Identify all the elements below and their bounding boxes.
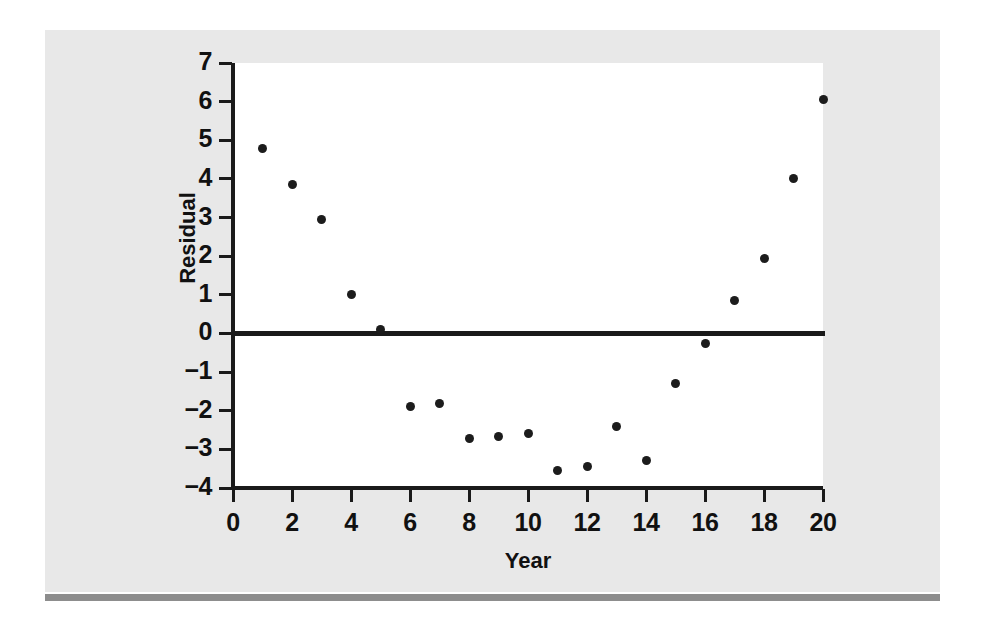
y-tick — [219, 255, 232, 258]
x-tick — [763, 489, 766, 502]
data-point — [760, 254, 769, 263]
x-tick-label: 8 — [439, 508, 499, 537]
y-tick-label: −3 — [154, 433, 212, 462]
y-tick — [219, 409, 232, 412]
x-tick-label: 0 — [203, 508, 263, 537]
data-point — [642, 456, 651, 465]
x-tick — [586, 489, 589, 502]
x-tick — [291, 489, 294, 502]
x-axis-title: Year — [233, 548, 823, 574]
x-tick-label: 10 — [498, 508, 558, 537]
y-tick — [219, 448, 232, 451]
y-axis-line — [231, 63, 235, 490]
data-point — [583, 462, 592, 471]
y-tick — [219, 62, 232, 65]
y-tick — [219, 216, 232, 219]
zero-reference-line — [231, 331, 825, 336]
residual-plot-figure: −4−3−2−101234567 02468101214161820 Resid… — [0, 0, 983, 622]
data-point — [494, 432, 503, 441]
x-tick-label: 12 — [557, 508, 617, 537]
x-tick-label: 14 — [616, 508, 676, 537]
x-tick — [232, 489, 235, 502]
x-tick-label: 20 — [793, 508, 853, 537]
y-tick — [219, 371, 232, 374]
data-point — [347, 290, 356, 299]
x-tick-label: 18 — [734, 508, 794, 537]
data-point — [376, 325, 385, 334]
y-tick — [219, 487, 232, 490]
x-tick — [527, 489, 530, 502]
y-tick — [219, 100, 232, 103]
y-tick-label: −1 — [154, 356, 212, 385]
x-tick — [409, 489, 412, 502]
data-point — [406, 402, 415, 411]
x-tick — [822, 489, 825, 502]
y-tick-label: 6 — [154, 86, 212, 115]
y-tick-label: −4 — [154, 472, 212, 501]
y-tick-label: −2 — [154, 395, 212, 424]
x-tick — [704, 489, 707, 502]
data-point — [612, 422, 621, 431]
data-point — [258, 144, 267, 153]
data-point — [465, 434, 474, 443]
y-tick — [219, 139, 232, 142]
y-tick-label: 5 — [154, 124, 212, 153]
x-tick — [645, 489, 648, 502]
x-tick-label: 6 — [380, 508, 440, 537]
y-tick-label: 7 — [154, 47, 212, 76]
data-point — [524, 429, 533, 438]
x-tick-label: 16 — [675, 508, 735, 537]
y-tick — [219, 293, 232, 296]
data-point — [701, 339, 710, 348]
y-axis-title: Residual — [175, 158, 201, 318]
x-tick-label: 2 — [262, 508, 322, 537]
plot-area — [233, 63, 823, 488]
y-tick — [219, 332, 232, 335]
y-tick — [219, 177, 232, 180]
footer-rule — [45, 594, 940, 601]
data-point — [288, 180, 297, 189]
data-point — [819, 95, 828, 104]
x-tick — [468, 489, 471, 502]
x-tick-label: 4 — [321, 508, 381, 537]
y-tick-label: 0 — [154, 317, 212, 346]
x-tick — [350, 489, 353, 502]
data-point — [317, 215, 326, 224]
